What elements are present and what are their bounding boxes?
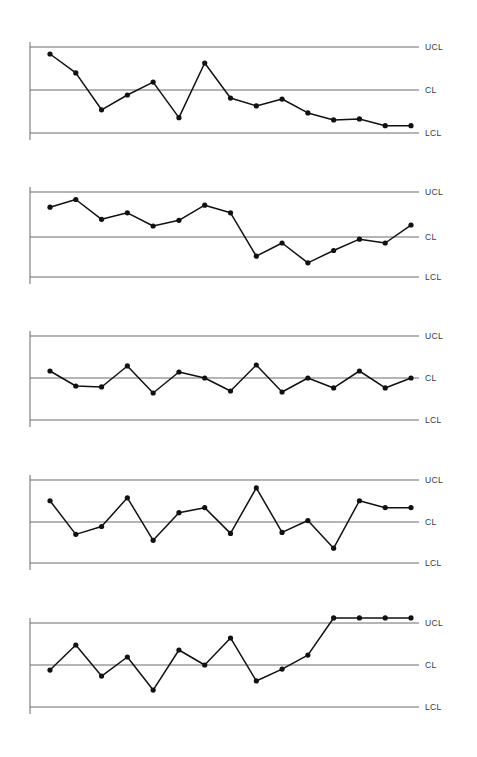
data-point: [125, 210, 130, 215]
data-point: [176, 510, 181, 515]
centre-line-label: CL: [425, 660, 437, 670]
data-point: [202, 662, 207, 667]
data-point: [228, 531, 233, 536]
data-point: [151, 390, 156, 395]
data-point: [47, 51, 52, 56]
data-point: [151, 223, 156, 228]
data-point: [47, 667, 52, 672]
data-point: [357, 116, 362, 121]
data-point: [408, 505, 413, 510]
lower-control-limit-label: LCL: [425, 702, 442, 712]
lower-control-limit-label: LCL: [425, 415, 442, 425]
data-point: [73, 383, 78, 388]
data-point: [99, 217, 104, 222]
data-point: [254, 678, 259, 683]
data-point: [408, 123, 413, 128]
data-point: [305, 375, 310, 380]
data-point: [176, 647, 181, 652]
data-point: [305, 652, 310, 657]
data-point: [331, 117, 336, 122]
data-point: [383, 615, 388, 620]
centre-line-label: CL: [425, 232, 437, 242]
control-chart-2: UCLCLLCL: [0, 170, 477, 310]
data-point: [228, 95, 233, 100]
lower-control-limit-label: LCL: [425, 558, 442, 568]
data-point: [357, 615, 362, 620]
data-point: [254, 485, 259, 490]
data-point: [305, 110, 310, 115]
chart-canvas: UCLCLLCL: [0, 170, 477, 310]
upper-control-limit-label: UCL: [425, 475, 443, 485]
data-point: [279, 96, 284, 101]
chart-canvas: UCLCLLCL: [0, 315, 477, 455]
data-point: [202, 60, 207, 65]
series-polyline: [50, 618, 411, 690]
series-polyline: [50, 200, 411, 263]
data-point: [254, 254, 259, 259]
data-point: [305, 260, 310, 265]
data-point: [228, 635, 233, 640]
data-point: [73, 197, 78, 202]
data-point: [151, 80, 156, 85]
data-point: [254, 362, 259, 367]
data-point: [73, 70, 78, 75]
data-point: [99, 673, 104, 678]
data-point: [125, 495, 130, 500]
data-point: [408, 222, 413, 227]
data-point: [73, 642, 78, 647]
data-point: [279, 666, 284, 671]
data-point: [279, 389, 284, 394]
data-point: [202, 203, 207, 208]
data-point: [99, 524, 104, 529]
lower-control-limit-label: LCL: [425, 272, 442, 282]
control-chart-sheet: UCLCLLCLUCLCLLCLUCLCLLCLUCLCLLCLUCLCLLCL: [0, 0, 477, 757]
control-chart-5: UCLCLLCL: [0, 600, 477, 740]
data-point: [47, 368, 52, 373]
data-point: [176, 369, 181, 374]
data-point: [305, 518, 310, 523]
centre-line-label: CL: [425, 517, 437, 527]
data-point: [99, 384, 104, 389]
data-point: [228, 210, 233, 215]
data-point: [331, 546, 336, 551]
series-polyline: [50, 488, 411, 548]
data-point: [47, 498, 52, 503]
data-point: [228, 388, 233, 393]
control-chart-4: UCLCLLCL: [0, 460, 477, 600]
data-point: [202, 375, 207, 380]
data-point: [357, 498, 362, 503]
control-chart-1: UCLCLLCL: [0, 20, 477, 160]
data-point: [202, 505, 207, 510]
data-point: [357, 237, 362, 242]
lower-control-limit-label: LCL: [425, 128, 442, 138]
data-point: [331, 248, 336, 253]
control-chart-3: UCLCLLCL: [0, 315, 477, 455]
data-point: [383, 385, 388, 390]
chart-canvas: UCLCLLCL: [0, 20, 477, 160]
data-point: [125, 363, 130, 368]
data-point: [151, 687, 156, 692]
upper-control-limit-label: UCL: [425, 331, 443, 341]
data-point: [151, 538, 156, 543]
data-point: [73, 532, 78, 537]
data-point: [279, 530, 284, 535]
data-point: [331, 385, 336, 390]
data-point: [125, 654, 130, 659]
data-point: [254, 103, 259, 108]
chart-canvas: UCLCLLCL: [0, 460, 477, 600]
data-point: [176, 115, 181, 120]
centre-line-label: CL: [425, 373, 437, 383]
upper-control-limit-label: UCL: [425, 42, 443, 52]
data-point: [279, 240, 284, 245]
data-point: [47, 205, 52, 210]
data-point: [408, 375, 413, 380]
data-point: [383, 123, 388, 128]
data-point: [125, 92, 130, 97]
upper-control-limit-label: UCL: [425, 187, 443, 197]
data-point: [176, 218, 181, 223]
data-point: [99, 107, 104, 112]
data-point: [383, 505, 388, 510]
data-point: [383, 240, 388, 245]
data-point: [408, 615, 413, 620]
centre-line-label: CL: [425, 85, 437, 95]
